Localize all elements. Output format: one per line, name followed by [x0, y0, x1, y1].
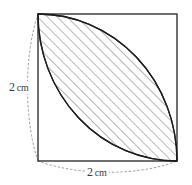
bottom-side-dimension-label: 2 cm — [85, 166, 109, 179]
geometry-figure: 2 cm 2 cm — [0, 0, 192, 185]
left-dimension-unit: cm — [15, 82, 29, 93]
bottom-dimension-unit: cm — [93, 167, 107, 178]
left-side-dimension-label: 2 cm — [7, 81, 31, 94]
